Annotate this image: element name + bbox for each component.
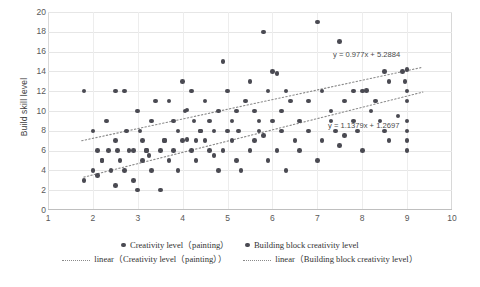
data-point [109,168,114,173]
legend-item-linear-building-block[interactable]: linear（Building block creativity level） [243,252,417,266]
data-point [275,148,280,153]
y-tick-label: 2 [20,185,46,195]
data-point [315,20,320,25]
data-point [127,148,132,153]
x-tick-label: 8 [350,213,374,223]
y-tick-label: 6 [20,145,46,155]
data-point [297,119,302,124]
dotted-line-icon [62,260,90,261]
data-point [207,119,212,124]
data-point [140,138,145,143]
data-point [261,30,266,35]
data-point [315,158,320,163]
x-tick-label: 3 [126,213,150,223]
data-point [252,138,257,143]
data-point [239,168,244,173]
data-point [144,148,149,153]
data-point [91,168,96,173]
data-point [82,178,87,183]
data-point [382,69,387,74]
y-tick-label: 4 [20,165,46,175]
data-point [149,119,154,124]
trendlines-layer [48,12,452,210]
data-point [261,133,266,138]
data-point [115,148,120,153]
legend-label: linear（Creativity level（painting）） [94,252,227,266]
legend-label: Building block creativity level [254,238,359,252]
data-point [293,138,298,143]
y-tick-label: 20 [20,7,46,17]
data-point [221,59,226,64]
data-point [403,79,408,84]
legend: Creativity level（painting） Building bloc… [0,238,480,266]
data-point [198,129,203,134]
legend-item-building-block[interactable]: Building block creativity level [245,238,358,252]
data-point [158,188,163,193]
y-tick-label: 12 [20,86,46,96]
data-point [275,71,280,76]
data-point [248,148,253,153]
x-axis-line [48,209,452,210]
legend-label: linear（Building block creativity level） [275,252,417,266]
data-point [171,119,176,124]
data-point [266,158,271,163]
x-tick-label: 4 [171,213,195,223]
data-point [158,148,163,153]
data-point [95,148,100,153]
legend-item-linear-creativity-painting[interactable]: linear（Creativity level（painting）） [62,252,227,266]
data-point [252,109,257,114]
data-point [337,39,342,44]
data-point [342,133,347,138]
legend-dot-icon [245,243,250,248]
data-point [306,99,311,104]
data-point [171,148,176,153]
data-point [234,109,239,114]
data-point [95,173,100,178]
legend-item-creativity-painting[interactable]: Creativity level（painting） [121,238,229,252]
data-point [216,168,221,173]
data-point [306,129,311,134]
data-point [405,67,410,72]
data-point [122,168,127,173]
x-tick-label: 9 [395,213,419,223]
x-tick-label: 7 [305,213,329,223]
data-point [248,79,253,84]
data-point [270,119,275,124]
x-tick-label: 10 [440,213,464,223]
data-point [131,178,136,183]
data-point [104,119,109,124]
data-point [106,148,111,153]
legend-label: Creativity level（painting） [130,238,229,252]
data-point [320,138,325,143]
data-point [342,99,347,104]
data-point [162,138,167,143]
data-point [360,148,365,153]
data-point [387,79,392,84]
dotted-line-icon [243,260,271,261]
x-tick-label: 1 [36,213,60,223]
x-tick-label: 2 [81,213,105,223]
trendline-equation-2: y = 1.1379x + 1.2697 [328,121,399,130]
data-point [131,148,136,153]
plot-area [48,12,452,210]
y-tick-label: 10 [20,106,46,116]
data-point [288,99,293,104]
data-point [147,153,152,158]
data-point [122,89,127,94]
data-point [284,168,289,173]
data-point [113,138,118,143]
data-point [279,129,284,134]
data-point [207,148,212,153]
data-point [124,129,129,134]
data-point [225,129,230,134]
data-point [297,148,302,153]
data-point [364,88,369,93]
data-point [118,158,123,163]
data-point [100,158,105,163]
legend-dot-icon [121,243,126,248]
x-tick-label: 6 [260,213,284,223]
data-point [189,148,194,153]
data-point [279,109,284,114]
data-point [149,168,154,173]
data-point [140,158,145,163]
